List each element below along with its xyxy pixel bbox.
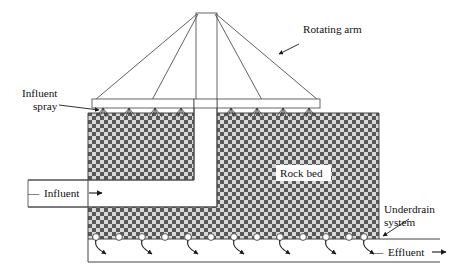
- label-influent: — Influent: [27, 187, 80, 199]
- label-rotating-arm: Rotating arm: [303, 23, 362, 35]
- influent-spray-label-line1: Influent: [22, 87, 58, 99]
- underdrain-label-line2: system: [384, 216, 415, 228]
- diagram-root: Rotating arm Influent spray Rock bed — I…: [0, 0, 467, 273]
- label-underdrain-system: Underdrain system: [384, 203, 435, 228]
- influent-spray-label-line2: spray: [33, 100, 58, 112]
- label-rock-bed: Rock bed: [276, 165, 331, 181]
- label-influent-spray: Influent spray: [22, 87, 58, 112]
- trickling-filter-diagram: Rotating arm Influent spray Rock bed — I…: [0, 0, 467, 273]
- effluent-label: Effluent: [388, 246, 425, 258]
- influent-dash: —: [27, 187, 40, 199]
- rock-bed-media: [88, 113, 379, 239]
- rotating-arm-mast: [196, 13, 217, 100]
- influent-label: Influent: [44, 187, 80, 199]
- rotating-arm-label: Rotating arm: [303, 23, 362, 35]
- label-effluent: — Effluent: [371, 246, 425, 258]
- rotating-arm-leader: [279, 44, 299, 54]
- distributor-arm: [92, 99, 320, 108]
- underdrain-label-line1: Underdrain: [384, 203, 435, 215]
- effluent-dash: —: [371, 246, 384, 258]
- rock-bed-label: Rock bed: [280, 167, 323, 179]
